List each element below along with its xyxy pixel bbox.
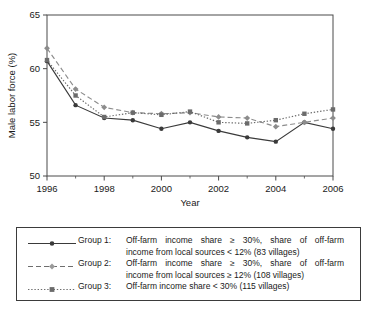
data-point-marker [245, 121, 249, 125]
data-point-marker [274, 139, 278, 143]
legend-description-line-2: income from local sources ≥ 12% (108 vil… [126, 270, 344, 282]
line-chart-svg: 50556065199619982000200220042006YearMale… [0, 0, 381, 215]
data-point-marker [131, 118, 135, 122]
legend-description-group-2: Off-farm income share ≥ 30%, share of of… [126, 258, 348, 281]
data-point-marker [245, 135, 249, 139]
axis-label-group: 50556065199619982000200220042006YearMale… [6, 9, 344, 208]
legend-description-group-3: Off-farm income share < 30% (115 village… [126, 281, 348, 293]
x-tick-label: 2002 [208, 183, 229, 194]
data-point-marker [188, 109, 192, 113]
legend-description-line-2: income from local sources < 12% (83 vill… [126, 247, 344, 259]
y-tick-label: 55 [29, 117, 40, 128]
y-axis-title: Male labor force (%) [6, 53, 17, 139]
data-point-marker [331, 127, 335, 131]
legend: Group 1: Off-farm income share ≥ 30%, sh… [16, 227, 361, 301]
legend-description-line-1: Off-farm income share ≥ 30%, share of of… [126, 258, 344, 270]
x-tick-label: 2000 [151, 183, 172, 194]
axis-group [43, 15, 333, 181]
data-point-marker [244, 115, 250, 121]
data-point-marker [302, 112, 306, 116]
data-point-marker [274, 118, 278, 122]
y-tick-label: 50 [29, 170, 40, 181]
legend-key-group-2: Group 2: [78, 258, 126, 269]
data-point-marker [330, 115, 336, 121]
legend-description-line-1: Off-farm income share < 30% (115 village… [126, 281, 344, 293]
data-point-marker [45, 58, 49, 62]
data-point-marker [216, 120, 220, 124]
data-point-marker [188, 120, 192, 124]
legend-entry-group-1: Group 1: Off-farm income share ≥ 30%, sh… [17, 235, 360, 258]
series-group [44, 45, 336, 143]
legend-swatch-group-2 [26, 258, 78, 269]
data-point-marker [216, 114, 222, 120]
plot-area: 50556065199619982000200220042006YearMale… [0, 0, 381, 215]
legend-description-line-1: Off-farm income share ≥ 30%, share of of… [126, 235, 344, 247]
caption-fragment [14, 309, 354, 321]
data-point-marker [216, 129, 220, 133]
data-point-marker [73, 86, 79, 92]
x-axis-title: Year [180, 197, 199, 208]
series-line [47, 61, 333, 141]
data-point-marker [73, 103, 77, 107]
legend-description-group-1: Off-farm income share ≥ 30%, share of of… [126, 235, 348, 258]
data-point-marker [101, 104, 107, 110]
x-tick-label: 2004 [265, 183, 286, 194]
data-point-marker [159, 127, 163, 131]
data-point-marker [273, 124, 279, 130]
x-tick-label: 2006 [322, 183, 343, 194]
data-point-marker [331, 107, 335, 111]
data-point-marker [102, 115, 106, 119]
data-point-marker [131, 110, 135, 114]
y-tick-label: 65 [29, 9, 40, 20]
chart-figure: 50556065199619982000200220042006YearMale… [0, 0, 381, 325]
data-point-marker [73, 93, 77, 97]
legend-swatch-group-1 [26, 235, 78, 246]
y-tick-label: 60 [29, 63, 40, 74]
data-point-marker [159, 113, 163, 117]
legend-entry-group-2: Group 2: Off-farm income share ≥ 30%, sh… [17, 258, 360, 281]
legend-swatch-group-3 [26, 281, 78, 292]
x-tick-label: 1998 [94, 183, 115, 194]
x-tick-label: 1996 [36, 183, 57, 194]
legend-key-group-3: Group 3: [78, 281, 126, 292]
series-group-1 [45, 59, 335, 144]
legend-key-group-1: Group 1: [78, 235, 126, 246]
legend-entry-group-3: Group 3: Off-farm income share < 30% (11… [17, 281, 360, 293]
